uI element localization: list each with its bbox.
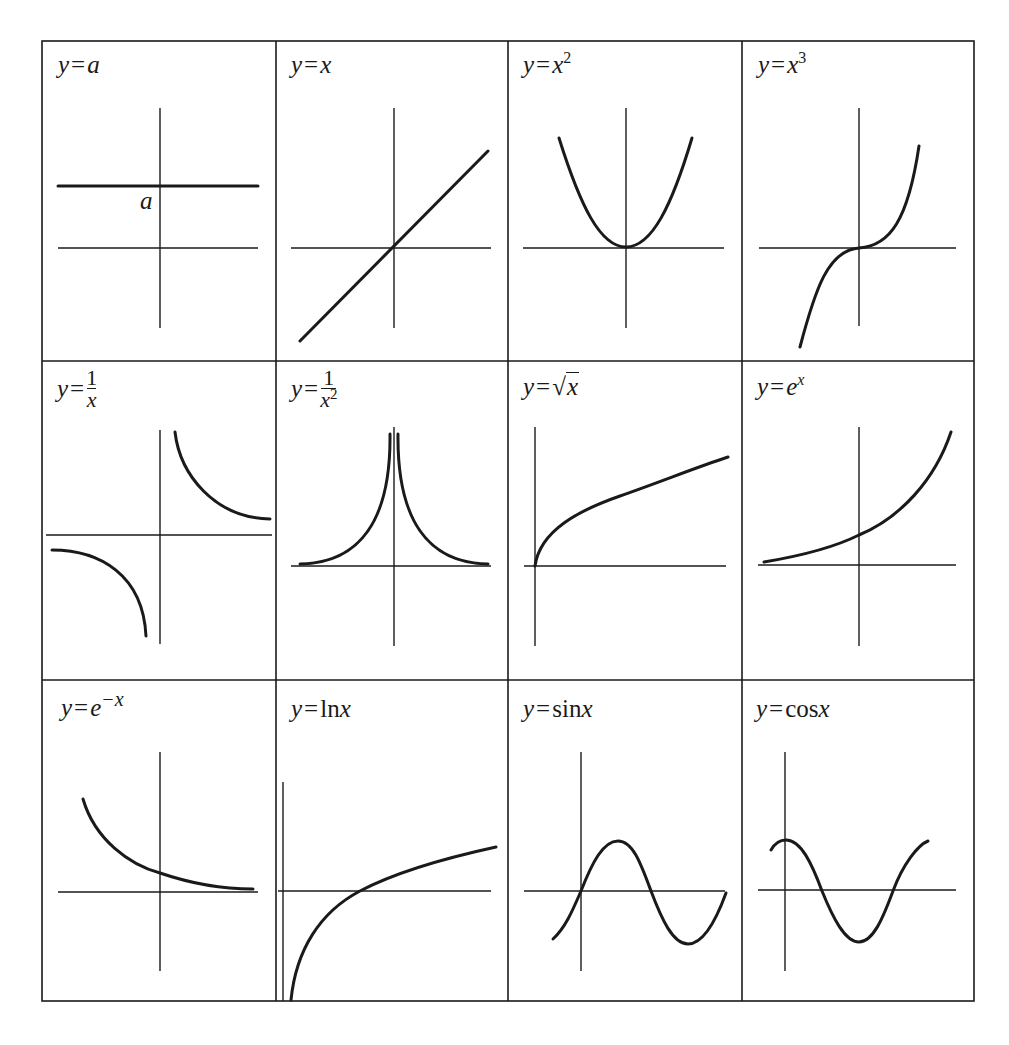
label-cube: y=x3 [758, 52, 806, 77]
label-lhs: y [61, 694, 72, 721]
label-exponential-decay: y=e−x [61, 695, 124, 720]
label-lhs: y [291, 695, 302, 722]
label-exponent: x [797, 371, 804, 388]
denominator: x2 [320, 389, 337, 411]
numerator: 1 [86, 368, 97, 388]
curve-inverse-square-left [300, 434, 390, 564]
label-equals: = [536, 373, 550, 400]
label-equals: = [70, 375, 84, 402]
label-lhs: y [523, 373, 534, 400]
function-graphs-table: y=a a y=x y=x2 y=x3 y=1x y=1x2 y=√x y=ex… [0, 0, 1009, 1045]
label-base: e [786, 373, 797, 400]
radicand: x [566, 372, 579, 400]
label-equals: = [771, 51, 785, 78]
label-base: x [552, 51, 563, 78]
label-lhs: y [291, 375, 302, 402]
label-rhs: a [87, 51, 100, 78]
label-sine: y=sinx [523, 696, 593, 721]
label-exponent: −x [101, 688, 123, 710]
curve-sine [553, 841, 726, 944]
curve-cosine [771, 840, 928, 942]
denominator: x [86, 389, 97, 411]
label-lhs: y [58, 51, 69, 78]
label-exponent: 2 [563, 49, 571, 66]
curve-inverse-square-right [398, 434, 488, 564]
function-argument: x [819, 695, 830, 722]
curve-square-root [535, 457, 728, 566]
label-base: x [787, 51, 798, 78]
label-equals: = [74, 694, 88, 721]
label-lhs: y [523, 51, 534, 78]
label-equals: = [304, 695, 318, 722]
label-equals: = [769, 695, 783, 722]
numerator: 1 [320, 368, 337, 388]
label-inverse-square: y=1x2 [291, 370, 337, 413]
label-rhs: x [320, 51, 331, 78]
label-natural-log: y=lnx [291, 696, 351, 721]
radical-sign: √ [552, 373, 566, 400]
label-lhs: y [523, 695, 534, 722]
label-reciprocal: y=1x [57, 370, 97, 413]
label-constant: y=a [58, 52, 100, 77]
function-name: ln [320, 695, 339, 722]
graphs-canvas [0, 0, 1009, 1045]
label-equals: = [770, 373, 784, 400]
function-argument: x [581, 695, 592, 722]
label-cosine: y=cosx [756, 696, 830, 721]
square-root-symbol: √x [552, 374, 579, 399]
denominator-exponent: 2 [330, 386, 338, 402]
label-exponent: 3 [798, 49, 806, 66]
curve-exponential-decay [83, 799, 253, 889]
label-lhs: y [291, 51, 302, 78]
label-equals: = [536, 51, 550, 78]
label-lhs: y [57, 375, 68, 402]
label-square: y=x2 [523, 52, 571, 77]
curves [52, 138, 951, 1000]
function-argument: x [340, 695, 351, 722]
label-equals: = [304, 51, 318, 78]
function-name: cos [785, 695, 818, 722]
curve-exponential [764, 432, 951, 562]
curve-reciprocal-positive [175, 432, 270, 519]
label-identity: y=x [291, 52, 331, 77]
fraction: 1x [86, 368, 97, 411]
curve-natural-log [291, 847, 496, 1000]
axes [46, 108, 956, 1001]
fraction: 1x2 [320, 368, 337, 411]
curve-reciprocal-negative [52, 550, 146, 636]
label-exponential: y=ex [757, 374, 804, 399]
annotation-a: a [140, 188, 153, 213]
label-equals: = [71, 51, 85, 78]
label-base: e [90, 694, 101, 721]
label-lhs: y [758, 51, 769, 78]
label-equals: = [536, 695, 550, 722]
denominator-base: x [320, 387, 330, 412]
label-square-root: y=√x [523, 374, 579, 399]
function-name: sin [552, 695, 581, 722]
label-lhs: y [756, 695, 767, 722]
label-equals: = [304, 375, 318, 402]
label-lhs: y [757, 373, 768, 400]
